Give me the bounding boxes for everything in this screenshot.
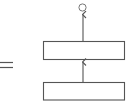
upper-layer-box — [44, 42, 125, 60]
stacked-layers-diagram — [0, 0, 132, 107]
equals-sign — [0, 63, 13, 68]
lower-layer-box — [44, 83, 125, 101]
output-circle-node — [79, 4, 86, 11]
